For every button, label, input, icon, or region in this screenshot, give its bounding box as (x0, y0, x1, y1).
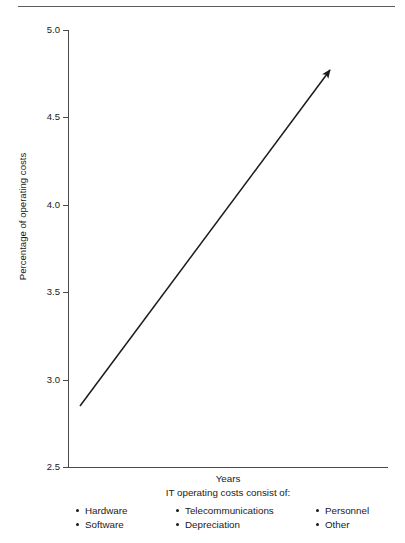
legend-item-label: Personnel (325, 505, 369, 516)
bullet-icon (316, 523, 319, 526)
legend-item: Software (76, 517, 127, 531)
trend-arrow-icon (0, 0, 405, 480)
legend-item-label: Hardware (85, 505, 127, 516)
legend-item-label: Software (85, 519, 124, 530)
bullet-icon (176, 523, 179, 526)
chart-plot-area: 5.0 4.5 4.0 3.5 3.0 2.5 Percentage of op… (0, 0, 405, 480)
legend-title: IT operating costs consist of: (68, 487, 388, 498)
bullet-icon (176, 509, 179, 512)
legend-item: Depreciation (176, 517, 274, 531)
bullet-icon (76, 523, 79, 526)
bullet-icon (76, 509, 79, 512)
x-axis-title: Years (68, 473, 388, 484)
legend: Hardware Software Telecommunications Dep… (0, 503, 405, 537)
legend-item: Other (316, 517, 369, 531)
legend-item-label: Depreciation (185, 519, 240, 530)
legend-column-2: Telecommunications Depreciation (176, 503, 274, 531)
legend-item: Hardware (76, 503, 127, 517)
legend-column-1: Hardware Software (76, 503, 127, 531)
legend-column-3: Personnel Other (316, 503, 369, 531)
legend-item-label: Other (325, 519, 350, 530)
legend-item: Telecommunications (176, 503, 274, 517)
legend-item: Personnel (316, 503, 369, 517)
bullet-icon (316, 509, 319, 512)
legend-item-label: Telecommunications (185, 505, 274, 516)
